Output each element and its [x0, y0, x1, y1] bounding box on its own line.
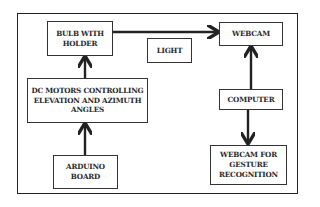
node-dc-motors: DC MOTORS CONTROLLING ELEVATION AND AZIM… — [27, 78, 148, 123]
node-bulb-with-holder: BULB WITH HOLDER — [47, 21, 113, 56]
node-light: LIGHT — [147, 38, 192, 63]
node-webcam-gesture-recognition: WEBCAM FOR GESTURE RECOGNITION — [210, 145, 287, 185]
node-arduino-board: ARDUINO BOARD — [53, 155, 118, 189]
node-computer: COMPUTER — [219, 89, 283, 110]
node-webcam: WEBCAM — [219, 22, 283, 46]
